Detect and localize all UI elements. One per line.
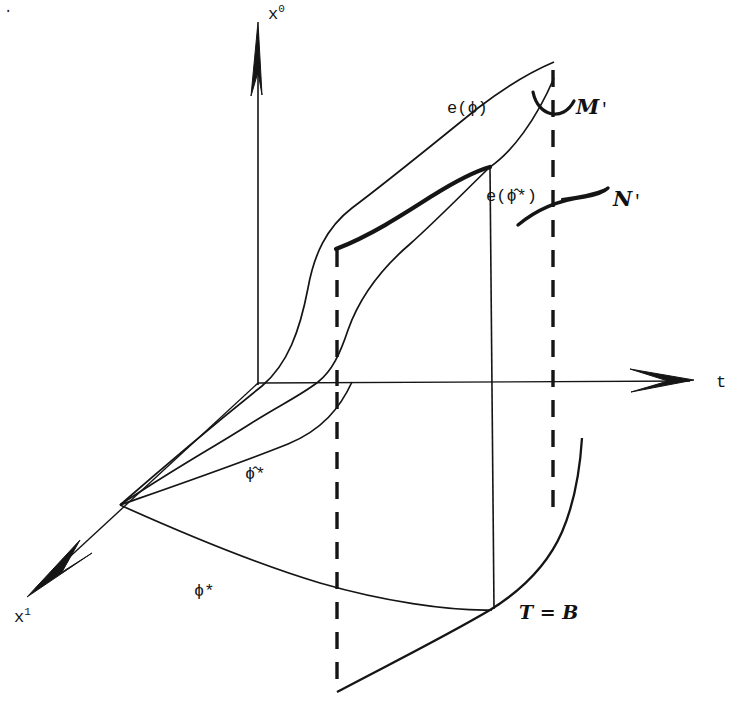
curve-n-prime-generator: [120, 167, 490, 505]
corner-artifact-mark: ·: [4, 4, 12, 18]
time-axis-line: [258, 381, 690, 383]
label-phi-hat-star: ϕ̂*: [245, 466, 265, 483]
time-axis-label: t: [716, 374, 726, 391]
vertical-axis-label: x0: [268, 6, 285, 23]
space-axis-label: x1: [14, 609, 31, 626]
sheet-n-prime-group: [120, 78, 608, 505]
label-manifold-n-prime: N': [613, 188, 642, 210]
boundary-phi-star-group: [120, 505, 492, 610]
label-e-phi-hat-star: e(ϕ̂*): [486, 188, 537, 205]
solid-guides: [490, 168, 494, 609]
space-axis-arrowhead: [27, 540, 92, 597]
label-phi-star: ϕ*: [194, 583, 214, 600]
dashed-guides: [337, 70, 553, 692]
label-boundary-t-equals-b: T = B: [519, 603, 578, 622]
boundary-t-b-group: [337, 438, 582, 692]
vertical-line-through-e-phi-hat-star: [490, 168, 494, 609]
curve-n-prime-bold: [336, 167, 490, 249]
label-e-phi: e(ϕ): [447, 100, 488, 117]
curve-phi-star: [120, 505, 492, 610]
sheet-m-prime-group: [120, 62, 574, 505]
figure-canvas: x0 t x1 e(ϕ) e(ϕ̂*) ϕ̂* ϕ* M' N' T = B ·: [0, 0, 749, 704]
label-manifold-m-prime: M': [576, 96, 609, 118]
curve-phi-hat-star: [120, 382, 352, 505]
trajectory-phi-hat-star-group: [120, 382, 352, 505]
vertical-axis-arrowhead: [251, 22, 262, 96]
curve-t-equals-b: [337, 438, 582, 692]
diagram-vector-layer: [0, 0, 749, 704]
